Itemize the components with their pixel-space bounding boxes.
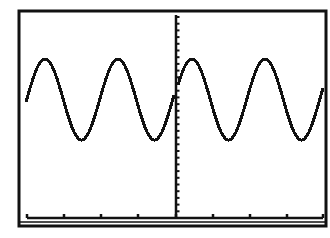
curve-right-branch (178, 59, 323, 140)
calculator-graph-screen (0, 0, 330, 238)
y-axis (176, 15, 180, 218)
curve-left-branch (26, 59, 174, 140)
function-curve (26, 59, 323, 140)
window-frame (19, 11, 326, 226)
